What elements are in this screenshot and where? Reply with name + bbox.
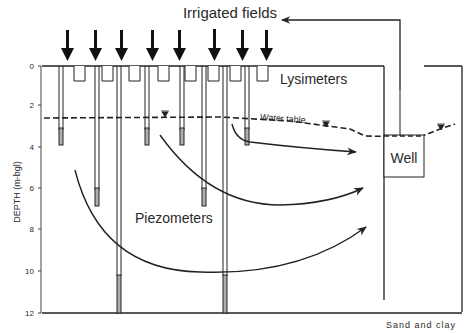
piezometer-tube: [245, 66, 249, 145]
section-frame: [42, 66, 462, 313]
groundwater-diagram: Irrigated fields 0 2 4 6 8 10 12 DEPTH (…: [0, 0, 474, 334]
flow-arrow-shallow: [232, 124, 356, 152]
svg-text:6: 6: [30, 184, 35, 193]
irrigation-arrows: [61, 29, 273, 61]
down-arrow-icon: [89, 30, 102, 61]
svg-text:10: 10: [25, 267, 34, 276]
piezometer-tube: [59, 66, 63, 145]
piezometer-tube: [95, 66, 99, 206]
down-arrow-icon: [61, 30, 74, 61]
y-axis-label: DEPTH (m-bgl): [12, 161, 22, 223]
label-piezometers: Piezometers: [135, 210, 213, 226]
lysimeters: [74, 66, 268, 81]
label-well: Well: [391, 150, 418, 166]
water-table-marker-icon: [161, 111, 169, 117]
down-arrow-icon: [146, 30, 159, 61]
label-lysimeters: Lysimeters: [280, 71, 347, 87]
svg-text:4: 4: [30, 143, 35, 152]
piezometer-tube: [117, 66, 121, 313]
flow-arrow-middle: [160, 135, 363, 205]
y-axis: [38, 66, 41, 313]
flow-arrows: [75, 124, 366, 272]
flow-arrow-deep: [75, 170, 366, 272]
title-irrigated-fields: Irrigated fields: [183, 4, 277, 21]
svg-text:8: 8: [30, 225, 35, 234]
down-arrow-icon: [208, 29, 221, 61]
svg-text:12: 12: [25, 309, 34, 318]
piezometer-tube: [145, 66, 149, 145]
svg-text:2: 2: [30, 101, 35, 110]
down-arrow-icon: [236, 30, 249, 61]
piezometer-tube: [223, 66, 227, 313]
down-arrow-icon: [260, 30, 273, 61]
piezometer-tube: [180, 66, 184, 145]
y-axis-tick-labels: 0 2 4 6 8 10 12: [25, 62, 34, 318]
down-arrow-icon: [173, 30, 186, 61]
down-arrow-icon: [115, 30, 128, 61]
piezometer-tube: [202, 66, 206, 206]
piezometers: [59, 66, 249, 313]
label-water-table: Water table: [260, 112, 306, 125]
svg-text:0: 0: [30, 62, 35, 71]
label-sand-clay: Sand and clay: [386, 320, 456, 330]
